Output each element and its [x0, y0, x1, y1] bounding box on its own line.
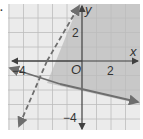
tick-y-pos: 2: [72, 26, 79, 40]
tick-x-pos: 2: [107, 64, 114, 78]
coordinate-graph: y x O 2 −4 2 −4: [0, 0, 143, 139]
x-axis-label: x: [129, 44, 137, 59]
tick-x-neg: −4: [12, 64, 26, 78]
tick-y-neg: −4: [63, 111, 77, 125]
origin-label: O: [71, 62, 81, 77]
